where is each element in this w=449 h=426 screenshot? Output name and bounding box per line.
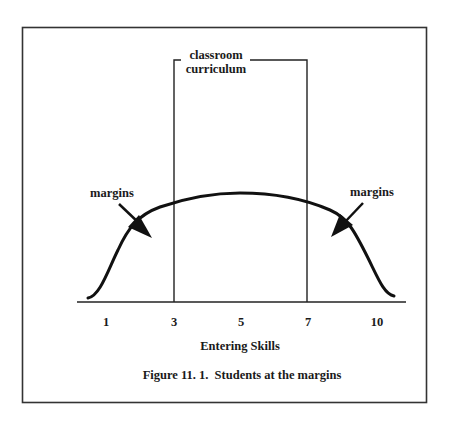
left-margins-label: margins	[90, 186, 134, 200]
x-tick-3: 3	[171, 315, 177, 329]
x-axis-label: Entering Skills	[200, 339, 280, 353]
left-arrow-icon	[128, 215, 152, 238]
x-tick-7: 7	[305, 315, 311, 329]
x-tick-5: 5	[238, 315, 244, 329]
right-margins-label: margins	[350, 185, 394, 199]
curriculum-label-line1: classroom	[189, 48, 243, 62]
x-tick-1: 1	[103, 315, 109, 329]
figure: classroom curriculum margins margins 1 3…	[0, 0, 449, 426]
x-tick-10: 10	[371, 315, 384, 329]
curriculum-label-line2: curriculum	[186, 62, 247, 76]
figure-caption: Figure 11. 1. Students at the margins	[143, 368, 342, 382]
distribution-curve	[88, 193, 394, 298]
curriculum-bracket	[174, 60, 307, 302]
